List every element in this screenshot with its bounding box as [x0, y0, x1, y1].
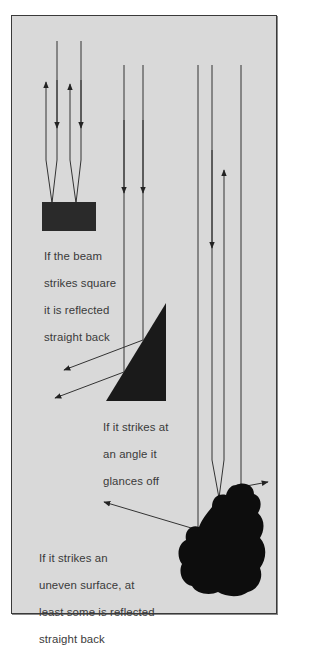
caption-line: straight back [39, 633, 155, 646]
caption-square: If the beam strikes square it is reflect… [44, 237, 116, 358]
square-target [42, 202, 96, 231]
caption-line: If it strikes at [103, 421, 169, 434]
caption-line: If it strikes an [39, 552, 155, 565]
caption-line: least some is reflected [39, 606, 155, 619]
caption-line: uneven surface, at [39, 579, 155, 592]
caption-line: an angle it [103, 448, 169, 461]
uneven-reflection-group [104, 65, 268, 596]
caption-angle: If it strikes at an angle it glances off [103, 408, 169, 502]
square-reflection-group [42, 41, 96, 231]
caption-uneven: If it strikes an uneven surface, at leas… [39, 539, 155, 649]
caption-line: glances off [103, 475, 169, 488]
irregular-target [179, 483, 266, 596]
scatter-arrow-icon [104, 502, 198, 530]
caption-line: straight back [44, 331, 116, 344]
caption-line: If the beam [44, 250, 116, 263]
caption-line: strikes square [44, 277, 116, 290]
caption-line: it is reflected [44, 304, 116, 317]
